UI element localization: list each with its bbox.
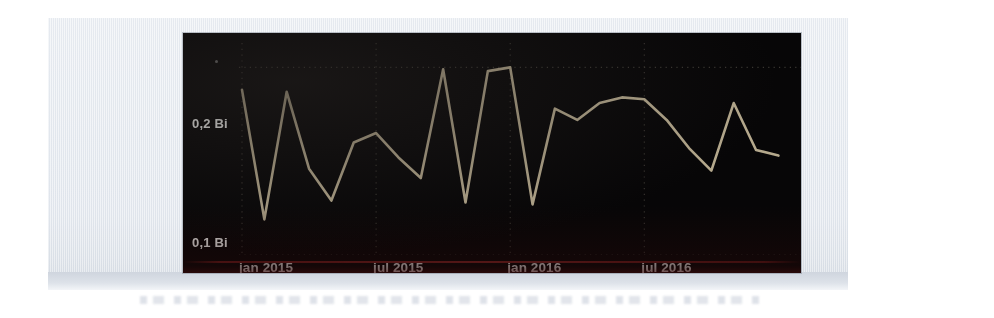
y-axis-tick-label-upper: 0,2 Bi xyxy=(192,116,228,131)
y-axis-tick-label-lower: 0,1 Bi xyxy=(192,235,228,250)
x-axis-tick-label-jul-2016: jul 2016 xyxy=(641,260,691,273)
horizontal-gridlines xyxy=(239,67,801,255)
line-chart-card: 0,2 Bi 0,1 Bi jan 2015 jul 2015 jan 2016… xyxy=(183,33,801,273)
x-axis-tick-label-jan-2015: jan 2015 xyxy=(239,260,293,273)
illegible-caption-ghost xyxy=(140,296,760,304)
x-axis-tick-label-jan-2016: jan 2016 xyxy=(507,260,561,273)
chart-svg xyxy=(239,43,801,255)
x-axis-tick-label-jul-2015: jul 2015 xyxy=(373,260,423,273)
scanned-page: 0,2 Bi 0,1 Bi jan 2015 jul 2015 jan 2016… xyxy=(0,0,994,318)
dust-speck-artifact xyxy=(215,60,218,63)
plot-area xyxy=(239,43,801,255)
paper-shadow-band xyxy=(48,272,848,290)
